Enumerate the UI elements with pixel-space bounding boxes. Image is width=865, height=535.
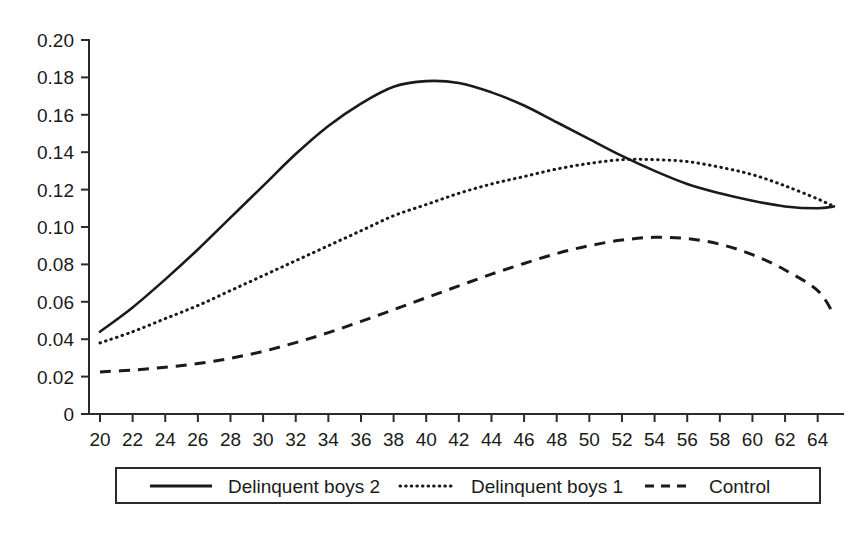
- x-tick-label: 24: [155, 429, 177, 450]
- legend-label-2[interactable]: Control: [709, 476, 770, 497]
- series-line-dotted: [100, 159, 834, 343]
- y-axis-ticks: 00.020.040.060.080.100.120.140.160.180.2…: [37, 30, 89, 425]
- x-tick-label: 52: [611, 429, 632, 450]
- x-tick-label: 26: [187, 429, 208, 450]
- x-tick-label: 20: [89, 429, 110, 450]
- line-chart: 00.020.040.060.080.100.120.140.160.180.2…: [0, 0, 865, 535]
- x-tick-label: 36: [350, 429, 371, 450]
- x-tick-label: 54: [644, 429, 666, 450]
- y-tick-label: 0.06: [37, 292, 74, 313]
- x-tick-label: 62: [774, 429, 795, 450]
- legend-label-0[interactable]: Delinquent boys 2: [228, 476, 380, 497]
- x-tick-label: 40: [416, 429, 437, 450]
- x-tick-label: 30: [253, 429, 274, 450]
- x-tick-label: 28: [220, 429, 241, 450]
- series-line-solid: [100, 81, 834, 332]
- chart-figure: 00.020.040.060.080.100.120.140.160.180.2…: [0, 0, 865, 535]
- x-tick-label: 60: [742, 429, 763, 450]
- x-axis-ticks: 2022242628303234363840424446485052545658…: [89, 414, 828, 450]
- y-tick-label: 0.02: [37, 367, 74, 388]
- x-tick-label: 38: [383, 429, 404, 450]
- x-tick-label: 44: [481, 429, 503, 450]
- series-lines: [100, 81, 834, 372]
- series-line-dashed: [100, 237, 834, 372]
- x-tick-label: 46: [514, 429, 535, 450]
- x-tick-label: 48: [546, 429, 567, 450]
- x-tick-label: 56: [677, 429, 698, 450]
- x-tick-label: 22: [122, 429, 143, 450]
- x-tick-label: 58: [709, 429, 730, 450]
- x-tick-label: 50: [579, 429, 600, 450]
- y-tick-label: 0.04: [37, 329, 74, 350]
- y-tick-label: 0.12: [37, 180, 74, 201]
- x-tick-label: 32: [285, 429, 306, 450]
- legend-label-1[interactable]: Delinquent boys 1: [471, 476, 623, 497]
- y-tick-label: 0: [63, 404, 74, 425]
- y-tick-label: 0.08: [37, 254, 74, 275]
- y-tick-label: 0.10: [37, 217, 74, 238]
- y-tick-label: 0.20: [37, 30, 74, 51]
- y-tick-label: 0.16: [37, 105, 74, 126]
- x-tick-label: 42: [448, 429, 469, 450]
- y-tick-label: 0.18: [37, 67, 74, 88]
- x-tick-label: 34: [318, 429, 340, 450]
- y-tick-label: 0.14: [37, 142, 74, 163]
- x-tick-label: 64: [807, 429, 829, 450]
